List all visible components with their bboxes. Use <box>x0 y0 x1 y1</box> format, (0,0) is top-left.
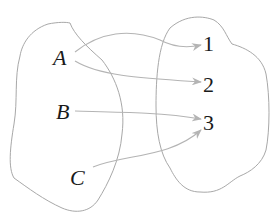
arrow-c-to-3 <box>93 130 201 167</box>
domain-element-a: A <box>51 45 67 70</box>
codomain-element-2: 2 <box>203 72 214 97</box>
arrow-a-to-2 <box>75 61 201 82</box>
codomain-element-1: 1 <box>203 31 214 56</box>
domain-element-c: C <box>70 165 85 190</box>
domain-element-b: B <box>56 99 69 124</box>
arrow-b-to-3 <box>75 111 201 119</box>
mapping-diagram: A B C 1 2 3 <box>0 0 277 215</box>
codomain-element-3: 3 <box>203 110 214 135</box>
arrow-a-to-1 <box>75 33 201 52</box>
